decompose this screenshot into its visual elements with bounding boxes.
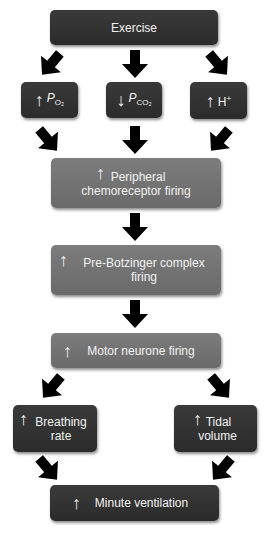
node-label: Minute ventilation [95,496,188,510]
node-label-line2: firing [83,270,204,284]
node-motor-neurone: ↑ Motor neurone firing [51,333,221,368]
arrow-up-icon: ↑ [59,251,68,269]
arrow-up-icon: ↑ [19,410,28,428]
arrow-up-icon: ↑ [193,410,202,428]
node-breathing-rate: ↑ Breathing rate [13,405,97,452]
flow-arrow-icon [122,213,148,241]
node-label-line2: volume [198,429,237,443]
node-peripheral: ↑ Peripheral chemoreceptor firing [51,158,221,208]
arrow-up-icon: ↑ [96,164,105,182]
arrow-down-icon: ↓ [116,91,125,109]
arrow-up-icon: ↑ [72,494,81,512]
node-superscript: + [227,94,232,103]
flow-arrow-icon [122,300,148,328]
flow-arrow-icon [29,121,67,159]
flow-arrow-icon [201,121,239,159]
node-label-line2: chemoreceptor firing [81,184,190,198]
node-tidal-volume: ↑ Tidal volume [174,405,257,452]
flow-arrow-icon [201,368,239,406]
node-subscript: O₂ [55,98,64,107]
node-po2: ↑ PO₂ [21,82,78,118]
flow-arrow-icon [32,45,70,83]
node-label-line2: rate [35,429,86,443]
node-label: H [218,95,227,109]
flow-arrow-icon [122,126,148,154]
arrow-up-icon: ↑ [206,92,215,110]
flow-arrow-icon [33,368,71,406]
flow-arrow-icon [199,45,237,83]
node-label: Motor neurone firing [87,344,194,358]
node-label-line1: Breathing [35,415,86,429]
node-exercise: Exercise [50,10,218,45]
flow-arrow-icon [122,50,148,78]
node-label-line1: Pre-Botzinger complex [83,256,204,270]
flow-arrow-icon [29,450,67,488]
node-prebotzinger: ↑ Pre-Botzinger complex firing [51,245,221,295]
arrow-up-icon: ↑ [63,342,72,360]
node-label: P [47,91,55,105]
node-label-line1: Tidal [198,415,237,429]
flow-arrow-icon [203,450,241,488]
node-label: Exercise [111,21,157,35]
node-subscript: CO₂ [136,98,151,107]
arrow-up-icon: ↑ [35,91,44,109]
node-pco2: ↓ PCO₂ [106,82,162,118]
node-h-plus: ↑ H+ [190,82,247,119]
node-minute-ventilation: ↑ Minute ventilation [50,485,219,521]
